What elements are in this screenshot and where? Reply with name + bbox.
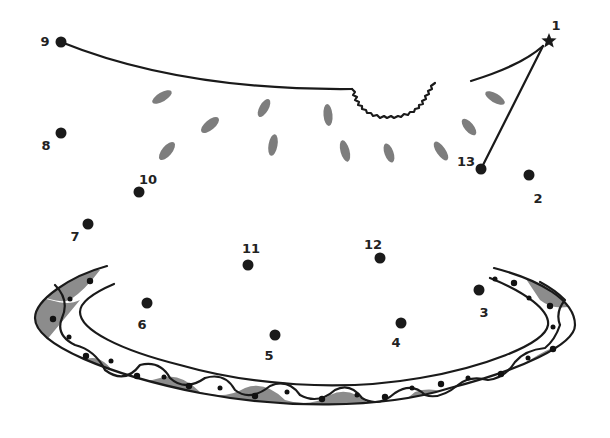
slice-right-edge bbox=[471, 46, 543, 81]
dot-label-2: 2 bbox=[533, 191, 542, 206]
dot-7[interactable] bbox=[83, 219, 94, 230]
dot-label-9: 9 bbox=[40, 34, 49, 49]
dot-5[interactable] bbox=[270, 330, 281, 341]
dot-label-4: 4 bbox=[391, 335, 400, 350]
dot-10[interactable] bbox=[134, 187, 145, 198]
dot-label-3: 3 bbox=[479, 305, 488, 320]
dot-3[interactable] bbox=[474, 285, 485, 296]
slice-top-edge bbox=[61, 42, 352, 89]
dot-12[interactable] bbox=[375, 253, 386, 264]
connect-the-dots-sheet: 12345678910111213 bbox=[0, 0, 610, 438]
seed-icon bbox=[267, 133, 280, 156]
seed-icon bbox=[483, 89, 507, 108]
seed-icon bbox=[459, 116, 479, 137]
dot-13[interactable] bbox=[476, 164, 487, 175]
seed-icon bbox=[156, 139, 178, 162]
dot-4[interactable] bbox=[396, 318, 407, 329]
bite-mark-edge bbox=[352, 83, 435, 118]
dot-label-7: 7 bbox=[70, 229, 79, 244]
seed-icon bbox=[255, 97, 273, 119]
dot-9[interactable] bbox=[56, 37, 67, 48]
dot-label-6: 6 bbox=[137, 317, 146, 332]
seed-icon bbox=[150, 88, 174, 107]
seed-icon bbox=[198, 114, 221, 136]
dot-label-8: 8 bbox=[41, 138, 50, 153]
dot-6[interactable] bbox=[142, 298, 153, 309]
seed-icon bbox=[431, 139, 451, 162]
dot-label-10: 10 bbox=[139, 172, 157, 187]
dot-11[interactable] bbox=[243, 260, 254, 271]
dot-label-13: 13 bbox=[457, 154, 475, 169]
dot-2[interactable] bbox=[524, 170, 535, 181]
dot-8[interactable] bbox=[56, 128, 67, 139]
rind-band bbox=[0, 250, 610, 438]
seed-icon bbox=[338, 139, 352, 163]
watermelon-seeds bbox=[150, 88, 507, 164]
seed-icon bbox=[381, 142, 396, 164]
seed-icon bbox=[323, 104, 334, 127]
dot-label-12: 12 bbox=[364, 237, 382, 252]
dot-label-1: 1 bbox=[551, 18, 560, 33]
dot-label-5: 5 bbox=[264, 348, 273, 363]
numbered-dots: 12345678910111213 bbox=[40, 18, 560, 363]
dot-label-11: 11 bbox=[242, 241, 260, 256]
